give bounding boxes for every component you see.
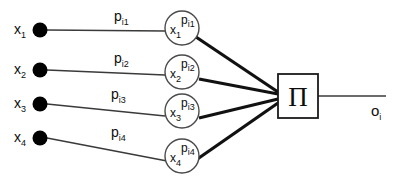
edge-label-1: pi1 xyxy=(114,8,129,27)
edge-input-1-to-node-1 xyxy=(47,30,165,31)
input-dot-2[interactable] xyxy=(33,63,48,78)
edge-input-2-to-node-2 xyxy=(47,70,165,75)
edge-label-4: pi4 xyxy=(111,124,126,143)
input-label-1: x1 xyxy=(14,21,26,40)
edge-node-4-to-product xyxy=(196,103,278,160)
edge-input-4-to-node-4 xyxy=(47,138,167,161)
input-dot-4[interactable] xyxy=(33,131,48,146)
product-operator-group[interactable]: Π xyxy=(278,74,318,118)
edge-node-2-to-product xyxy=(199,79,278,94)
network-diagram: x1 x2 x3 x4 pi1 pi2 pi3 pi4 xyxy=(0,0,402,190)
edge-label-2: pi2 xyxy=(114,50,129,69)
input-dots-group xyxy=(33,23,48,146)
input-dot-1[interactable] xyxy=(33,23,48,38)
input-dot-3[interactable] xyxy=(33,97,48,112)
input-label-2: x2 xyxy=(14,61,26,80)
output-label: oi xyxy=(371,102,381,122)
edge-node-1-to-product xyxy=(196,37,278,92)
edge-node-3-to-product xyxy=(199,99,278,118)
diagram-canvas: x1 x2 x3 x4 pi1 pi2 pi3 pi4 xyxy=(0,0,402,190)
input-label-4: x4 xyxy=(14,129,26,148)
product-operator-symbol: Π xyxy=(288,82,308,112)
input-label-3: x3 xyxy=(14,95,26,114)
edge-labels-group: pi1 pi2 pi3 pi4 xyxy=(111,8,129,143)
input-edges-group xyxy=(47,30,167,161)
product-edges-group xyxy=(196,37,278,160)
input-labels-group: x1 x2 x3 x4 xyxy=(14,21,26,148)
edge-label-3: pi3 xyxy=(111,86,126,105)
edge-input-3-to-node-3 xyxy=(47,104,165,116)
